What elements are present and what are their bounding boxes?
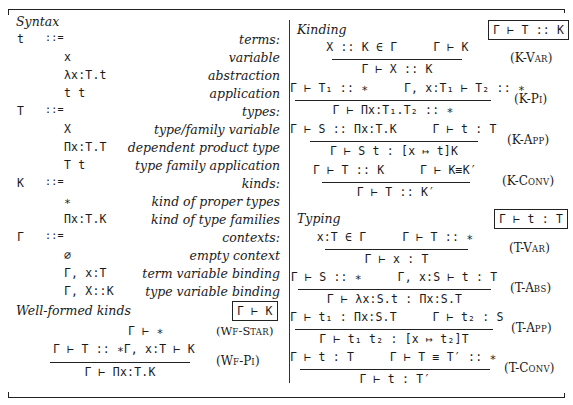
production-desc: variable — [229, 50, 280, 65]
production-desc: type variable binding — [145, 284, 280, 299]
category-contexts: contexts: — [222, 230, 280, 245]
production-desc: empty context — [190, 248, 280, 263]
conclusion: Γ ⊢ t₁ t₂ : [x ↦ t₂]T — [295, 332, 493, 346]
premises: Γ ⊢ S :: Πx:T.K Γ ⊢ t : T — [290, 122, 496, 136]
rule-name-k-app: (K-APP) — [507, 133, 549, 147]
rule-k-var: X :: K ∈ Γ Γ ⊢ K Γ ⊢ X :: K (K-VAR) — [290, 40, 573, 80]
inference-bar — [295, 329, 493, 330]
production-form: Γ, X::K — [64, 284, 114, 298]
figure-frame-bottom-left-tick — [8, 392, 9, 397]
rule-name-t-abs: (T-ABS) — [510, 281, 551, 295]
rule-name-wf-pi: (WF-PI) — [216, 354, 260, 368]
production-row: X type/family variable — [0, 122, 290, 141]
conclusion: Γ ⊢ S t : [x ↦ t]K — [310, 144, 478, 158]
typing-heading: Typing — [297, 211, 340, 226]
production-row: Πx:T.K kind of type families — [0, 212, 290, 231]
production-desc: type family application — [135, 158, 280, 173]
rule-t-app: Γ ⊢ t₁ : Πx:S.T Γ ⊢ t₂ : S Γ ⊢ t₁ t₂ : [… — [290, 310, 573, 350]
rule-name-t-var: (T-VAR) — [509, 241, 550, 255]
inference-bar — [325, 249, 468, 250]
rule-name-k-pi: (K-PI) — [514, 92, 547, 106]
conclusion: Γ ⊢ Πx:T.K — [50, 365, 190, 379]
production-desc: kind of type families — [151, 212, 280, 227]
syntax-terms-header: t ::= terms: — [0, 32, 290, 51]
syntax-contexts-header: Γ ::= contexts: — [0, 230, 290, 249]
inference-bar — [310, 141, 478, 142]
wf-star-axiom: Γ ⊢ ∗ — [128, 324, 164, 338]
figure-frame-top-right-tick — [564, 9, 565, 13]
assign-symbol: ::= — [45, 32, 64, 43]
production-desc: kind of proper types — [152, 194, 280, 209]
wf-kinds-heading: Well-formed kinds — [16, 303, 131, 318]
production-form: t t — [64, 86, 85, 100]
metavar-t: t — [17, 32, 24, 46]
inference-bar — [50, 362, 190, 363]
conclusion: Γ ⊢ t : T′ — [300, 372, 490, 386]
metavar-T: T — [17, 104, 24, 118]
premises: X :: K ∈ Γ Γ ⊢ K — [310, 40, 485, 54]
production-row: Γ, x:T term variable binding — [0, 266, 290, 285]
inference-bar — [295, 100, 491, 101]
rule-name-t-app: (T-APP) — [511, 321, 552, 335]
production-form: λx:T.t — [64, 68, 107, 82]
category-kinds: kinds: — [242, 176, 280, 191]
inference-bar — [298, 289, 491, 290]
production-form: T t — [64, 158, 85, 172]
inference-bar — [300, 369, 490, 370]
rule-name-wf-star: (WF-STAR) — [216, 324, 273, 338]
production-form: Γ, x:T — [64, 266, 107, 280]
production-row: ∅ empty context — [0, 248, 290, 267]
production-row: ∗ kind of proper types — [0, 194, 290, 213]
production-row: λx:T.t abstraction — [0, 68, 290, 87]
production-row: Πx:T.T dependent product type — [0, 140, 290, 159]
production-desc: type/family variable — [154, 122, 280, 137]
production-form: X — [64, 122, 71, 136]
rule-name-k-conv: (K-CONV) — [502, 174, 554, 188]
kinding-judgment-box: Γ ⊢ T :: K — [488, 20, 569, 40]
syntax-types-header: T ::= types: — [0, 104, 290, 123]
premises: Γ ⊢ S :: ∗ Γ, x:S ⊢ t : T — [290, 270, 498, 284]
premises: Γ ⊢ T₁ :: ∗ Γ, x:T₁ ⊢ T₂ :: ∗ — [290, 81, 500, 95]
premises: x:T ∈ Γ Γ ⊢ T :: ∗ — [310, 230, 480, 244]
wf-kinds-judgment-box: Γ ⊢ K — [232, 301, 278, 321]
assign-symbol: ::= — [45, 104, 64, 115]
inference-bar — [322, 182, 470, 183]
syntax-heading: Syntax — [16, 14, 59, 29]
conclusion: Γ ⊢ Πx:T₁.T₂ :: ∗ — [295, 103, 491, 117]
production-form: Πx:T.K — [64, 212, 107, 226]
production-desc: application — [209, 86, 280, 101]
production-row: t t application — [0, 86, 290, 105]
production-desc: dependent product type — [128, 140, 280, 155]
premise: Γ, x:T ⊢ K — [115, 342, 195, 356]
rule-t-abs: Γ ⊢ S :: ∗ Γ, x:S ⊢ t : T Γ ⊢ λx:S.t : Π… — [290, 270, 573, 310]
rule-k-app: Γ ⊢ S :: Πx:T.K Γ ⊢ t : T Γ ⊢ S t : [x ↦… — [290, 122, 573, 162]
rule-k-pi: Γ ⊢ T₁ :: ∗ Γ, x:T₁ ⊢ T₂ :: ∗ Γ ⊢ Πx:T₁.… — [290, 81, 573, 121]
figure-frame-top — [8, 9, 565, 10]
premises: Γ ⊢ T :: K Γ ⊢ K≡K′ — [310, 163, 480, 177]
assign-symbol: ::= — [45, 176, 64, 187]
metavar-K: K — [17, 176, 24, 190]
production-form: Πx:T.T — [64, 140, 107, 154]
rule-wf-pi: Γ ⊢ T :: ∗ Γ, x:T ⊢ K Γ ⊢ Πx:T.K (WF-PI) — [0, 342, 290, 382]
figure-frame-top-left-tick — [8, 9, 9, 15]
production-form: ∅ — [64, 248, 71, 262]
category-terms: terms: — [239, 32, 280, 47]
conclusion: Γ ⊢ T :: K′ — [322, 185, 470, 199]
production-desc: abstraction — [208, 68, 280, 83]
premises: Γ ⊢ t : T Γ ⊢ T ≡ T′ :: ∗ — [290, 350, 496, 364]
conclusion: Γ ⊢ x : T — [325, 252, 468, 266]
rule-name-t-conv: (T-CONV) — [504, 361, 555, 375]
rule-t-conv: Γ ⊢ t : T Γ ⊢ T ≡ T′ :: ∗ Γ ⊢ t : T′ (T-… — [290, 350, 573, 390]
typing-judgment-box: Γ ⊢ t : T — [494, 209, 568, 229]
production-row: x variable — [0, 50, 290, 69]
production-form: x — [64, 50, 71, 64]
figure-frame-bottom-right-tick — [564, 393, 565, 397]
conclusion: Γ ⊢ λx:S.t : Πx:S.T — [298, 292, 491, 306]
rule-k-conv: Γ ⊢ T :: K Γ ⊢ K≡K′ Γ ⊢ T :: K′ (K-CONV) — [290, 163, 573, 203]
syntax-kinds-header: K ::= kinds: — [0, 176, 290, 195]
production-row: T t type family application — [0, 158, 290, 177]
rule-t-var: x:T ∈ Γ Γ ⊢ T :: ∗ Γ ⊢ x : T (T-VAR) — [290, 230, 573, 270]
assign-symbol: ::= — [45, 230, 64, 241]
conclusion: Γ ⊢ X :: K — [332, 62, 462, 76]
category-types: types: — [242, 104, 280, 119]
